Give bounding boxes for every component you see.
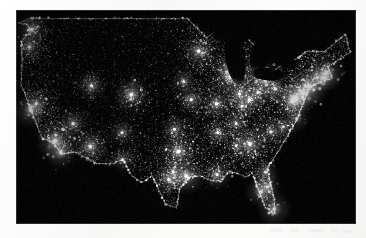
satellite-photograph (16, 10, 356, 224)
photo-subtitle: Satellite composite of artificial light … (0, 226, 1, 227)
caption-area: United States City Lights at Night Satel… (0, 226, 366, 238)
photo-title: United States City Lights at Night (0, 226, 1, 227)
scanned-page: United States City Lights at Night Satel… (0, 0, 366, 238)
night-lights-map (16, 10, 356, 224)
city-lights-canvas (16, 10, 356, 224)
